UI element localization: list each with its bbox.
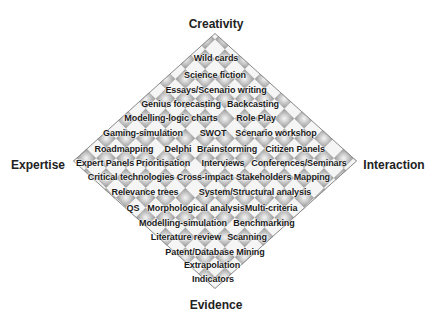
method-system-structural-analysis: System/Structural analysis [199, 187, 311, 197]
method-benchmarking: Benchmarking [233, 218, 294, 228]
axis-label-creativity: Creativity [189, 17, 244, 31]
method-scanning: Scanning [227, 232, 267, 242]
method-roadmapping: Roadmapping [95, 144, 154, 154]
method-scenario-workshop: Scenario workshop [235, 128, 316, 138]
method-modelling-simulation: Modelling-simulation [139, 218, 227, 228]
axis-label-evidence: Evidence [190, 298, 243, 312]
method-stakeholders-mapping: Stakeholders Mapping [236, 172, 330, 182]
axis-label-interaction: Interaction [363, 158, 424, 172]
method-science-fiction: Science fiction [184, 70, 246, 80]
method-citizen-panels: Citizen Panels [265, 144, 325, 154]
method-gaming-simulation: Gaming-simulation [103, 128, 183, 138]
method-indicators: Indicators [192, 274, 234, 284]
method-multi-criteria: Multi-criteria [245, 203, 298, 213]
axis-label-expertise: Expertise [11, 158, 65, 172]
method-modelling-logic-charts: Modelling-logic charts [124, 113, 217, 123]
method-brainstorming: Brainstorming [197, 144, 257, 154]
method-patent-database-mining: Patent/Database Mining [165, 247, 264, 257]
method-essays-scenario-writing: Essays/Scenario writing [165, 85, 266, 95]
method-genius-forecasting: Genius forecasting [141, 99, 221, 109]
method-conferences-seminars: Conferences/Seminars [251, 158, 347, 168]
method-extrapolation: Extrapolation [184, 260, 240, 270]
method-interviews: Interviews [201, 158, 244, 168]
method-literature-review: Literature review [151, 232, 221, 242]
method-swot: SWOT [200, 128, 227, 138]
method-backcasting: Backcasting [227, 99, 279, 109]
method-role-play: Role Play [236, 113, 276, 123]
method-cross-impact: Cross-impact [177, 172, 233, 182]
method-morphological-analysis: Morphological analysis [147, 203, 244, 213]
method-relevance-trees: Relevance trees [111, 187, 178, 197]
method-delphi: Delphi [165, 144, 192, 154]
method-expert-panels: Expert Panels [76, 158, 134, 168]
method-qs: QS [127, 203, 140, 213]
method-wild-cards: Wild cards [194, 53, 238, 63]
method-critical-technologies: Critical technologies [88, 172, 174, 182]
method-prioritisation: Prioritisation [136, 158, 190, 168]
